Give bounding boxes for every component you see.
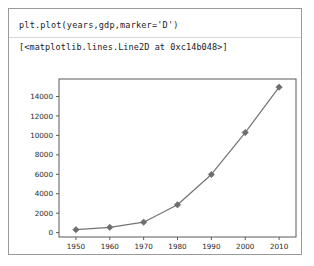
cell-output-repr: [<matplotlib.lines.Line2D at 0xc14b048>] — [19, 42, 228, 52]
data-point-marker — [141, 219, 147, 225]
y-axis-tick-label: 2000 — [35, 209, 54, 218]
x-axis-tick-label: 1960 — [101, 242, 120, 251]
x-axis-tick-label: 1990 — [202, 242, 221, 251]
matplotlib-figure: 0200040006000800010000120001400019501960… — [13, 61, 297, 252]
y-axis-tick-label: 12000 — [30, 112, 53, 121]
code-input-line[interactable]: plt.plot(years,gdp,marker='D') — [19, 20, 179, 30]
data-point-marker — [107, 224, 113, 230]
x-axis-tick-label: 1980 — [168, 242, 187, 251]
y-axis-tick-label: 4000 — [35, 189, 54, 198]
y-axis-tick-label: 10000 — [30, 131, 53, 140]
y-axis-tick-label: 6000 — [35, 170, 54, 179]
x-axis-tick-label: 1950 — [67, 242, 86, 251]
x-axis-tick-label: 2010 — [270, 242, 289, 251]
notebook-cell-frame: plt.plot(years,gdp,marker='D') [<matplot… — [8, 8, 302, 255]
axes-frame — [59, 79, 296, 237]
line-chart: 0200040006000800010000120001400019501960… — [13, 61, 297, 252]
notebook-cell-screenshot: plt.plot(years,gdp,marker='D') [<matplot… — [0, 0, 314, 266]
x-axis-tick-label: 2000 — [236, 242, 255, 251]
y-axis-tick-label: 14000 — [30, 92, 53, 101]
y-axis-tick-label: 0 — [48, 228, 53, 237]
x-axis-tick-label: 1970 — [134, 242, 153, 251]
data-point-marker — [73, 227, 79, 233]
y-axis-tick-label: 8000 — [35, 150, 54, 159]
cell-divider — [9, 37, 301, 38]
